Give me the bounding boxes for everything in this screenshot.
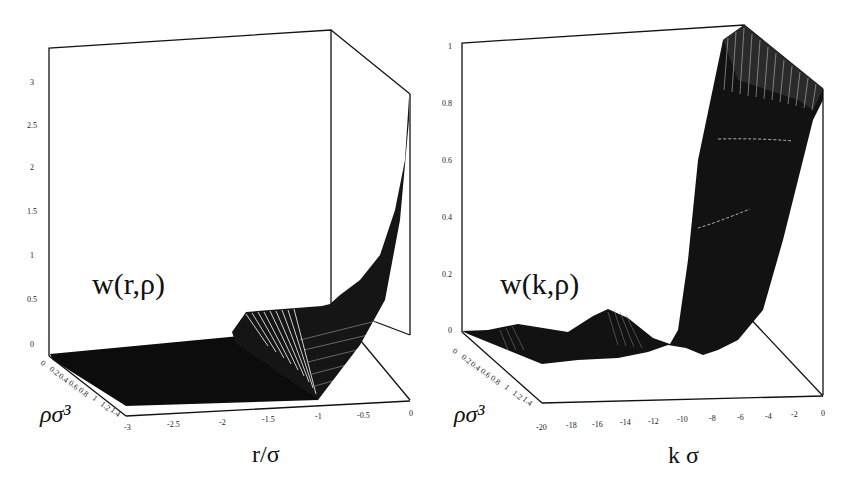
svg-text:0: 0 <box>451 346 460 356</box>
z-axis-ticks: 1 0.8 0.6 0.4 0.2 0 <box>442 42 452 335</box>
svg-text:-14: -14 <box>620 418 631 427</box>
svg-text:1: 1 <box>503 382 512 392</box>
svg-text:-1: -1 <box>315 412 322 421</box>
svg-text:-10: -10 <box>677 415 688 424</box>
x-axis-label: r/σ <box>252 441 280 467</box>
x-axis-ticks: -3 -2.5 -2 -1.5 -1 -0.5 0 <box>124 409 413 432</box>
svg-text:1: 1 <box>448 42 452 51</box>
z-axis-ticks: 3 2.5 2 1.5 1 0.5 0 <box>27 78 37 349</box>
svg-text:-2.5: -2.5 <box>167 420 180 429</box>
svg-text:-2: -2 <box>219 418 226 427</box>
svg-text:-18: -18 <box>566 421 577 430</box>
svg-text:0.6: 0.6 <box>442 156 452 165</box>
svg-text:-16: -16 <box>592 420 603 429</box>
x-axis-label: k σ <box>668 442 699 468</box>
surface-plot-w-r: 3 2.5 2 1.5 1 0.5 0 0 0.2 0.4 0.6 0.8 1 … <box>0 0 430 481</box>
svg-text:0.5: 0.5 <box>27 295 37 304</box>
svg-text:0: 0 <box>448 326 452 335</box>
svg-text:0.8: 0.8 <box>442 99 452 108</box>
svg-text:1: 1 <box>30 251 34 260</box>
svg-text:0.8: 0.8 <box>77 385 90 398</box>
svg-text:0.2: 0.2 <box>442 270 452 279</box>
svg-text:2: 2 <box>30 163 34 172</box>
function-label: w(r,ρ) <box>92 267 165 301</box>
svg-text:1.5: 1.5 <box>27 207 37 216</box>
svg-text:-20: -20 <box>536 423 547 432</box>
svg-text:-3: -3 <box>124 423 131 432</box>
svg-text:2.5: 2.5 <box>27 121 37 130</box>
svg-text:1.4: 1.4 <box>521 394 534 407</box>
x-axis-ticks: -20 -18 -16 -14 -12 -10 -8 -6 -4 -2 0 <box>536 409 825 432</box>
surface-rise <box>232 97 409 400</box>
svg-text:1.4: 1.4 <box>109 405 122 418</box>
y-axis-label: ρσ³ <box>453 401 485 427</box>
svg-text:0.4: 0.4 <box>442 213 452 222</box>
svg-text:0.8: 0.8 <box>489 373 502 386</box>
surface-plot-w-k: 1 0.8 0.6 0.4 0.2 0 0 0.2 0.4 0.6 0.8 1 … <box>418 0 848 481</box>
svg-text:-12: -12 <box>648 417 659 426</box>
svg-text:3: 3 <box>30 78 34 87</box>
svg-text:0: 0 <box>39 358 48 368</box>
svg-text:0: 0 <box>30 340 34 349</box>
svg-text:-4: -4 <box>765 412 772 421</box>
svg-text:-8: -8 <box>709 414 716 423</box>
chart-panel-w-r-rho: 3 2.5 2 1.5 1 0.5 0 0 0.2 0.4 0.6 0.8 1 … <box>0 0 430 481</box>
svg-text:-6: -6 <box>737 413 744 422</box>
svg-text:0: 0 <box>409 409 413 418</box>
y-axis-label: ρσ³ <box>39 401 71 427</box>
svg-text:0: 0 <box>821 409 825 418</box>
chart-panel-w-k-rho: 1 0.8 0.6 0.4 0.2 0 0 0.2 0.4 0.6 0.8 1 … <box>418 0 848 481</box>
svg-text:-0.5: -0.5 <box>357 411 370 420</box>
svg-text:1: 1 <box>91 393 100 403</box>
svg-text:-2: -2 <box>791 410 798 419</box>
function-label: w(k,ρ) <box>500 267 579 301</box>
svg-text:-1.5: -1.5 <box>262 415 275 424</box>
